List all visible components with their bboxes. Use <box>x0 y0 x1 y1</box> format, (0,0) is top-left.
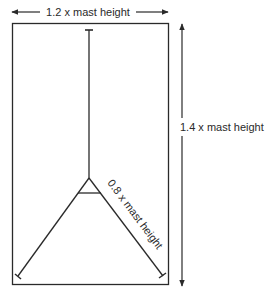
legs: 0.8 x mast height <box>15 177 166 279</box>
height-label: 1.4 x mast height <box>180 121 264 133</box>
height-dimension: 1.4 x mast height <box>180 24 264 286</box>
mast <box>85 30 93 178</box>
width-dimension: 1.2 x mast height <box>12 6 168 18</box>
left-leg-foot-icon <box>15 274 21 279</box>
footprint-rectangle <box>13 24 169 285</box>
right-leg-foot-icon <box>159 273 166 278</box>
mast-layout-diagram: 1.2 x mast height 1.4 x mast height 0.8 … <box>0 0 277 296</box>
width-label: 1.2 x mast height <box>46 6 130 18</box>
